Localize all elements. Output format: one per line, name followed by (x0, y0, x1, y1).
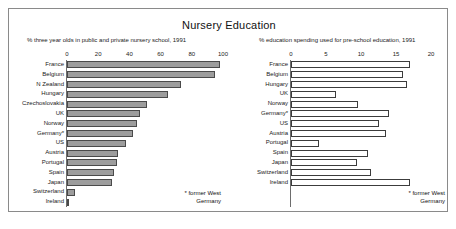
bar (291, 169, 371, 176)
footnote-line: * former West (408, 189, 445, 197)
bar-row: UK (67, 109, 223, 119)
category-label: Germany* (37, 129, 67, 139)
bar (67, 101, 147, 108)
x-tick-left-40: 40 (126, 51, 133, 57)
footnote-left: * former WestGermany (184, 189, 221, 205)
bar (291, 81, 407, 88)
category-label: Spain (273, 148, 291, 158)
bar (67, 61, 220, 68)
bar-row: Japan (67, 178, 223, 188)
bar (67, 150, 118, 157)
bar (67, 169, 114, 176)
x-tick-left-60: 60 (157, 51, 164, 57)
bar (291, 101, 358, 108)
bar-row: Hungary (67, 89, 223, 99)
bar-track (291, 120, 431, 127)
bar (67, 110, 140, 117)
bar (291, 159, 357, 166)
bar-row: Portugal (291, 138, 431, 148)
bar-row: Germany* (67, 129, 223, 139)
category-label: France (269, 60, 291, 70)
bar (67, 199, 69, 206)
bar-track (67, 130, 223, 137)
figure-root: Nursery Education % three year olds in p… (0, 0, 456, 229)
bar (291, 71, 403, 78)
category-label: US (280, 119, 291, 129)
bar-row: Austria (291, 129, 431, 139)
bar-track (67, 101, 223, 108)
bar (67, 91, 168, 98)
plot-area-left: 020406080100 FranceBelgiumN ZealandHunga… (67, 51, 223, 207)
bar-track (291, 101, 431, 108)
bar (67, 130, 133, 137)
category-label: UK (280, 89, 291, 99)
bar-track (67, 159, 223, 166)
bar (291, 140, 319, 147)
bar-row: Spain (67, 168, 223, 178)
category-label: Norway (268, 99, 291, 109)
category-label: N Zealand (36, 80, 67, 90)
footnote-line: Germany (184, 197, 221, 205)
bar (67, 179, 112, 186)
footnote-line: * former West (184, 189, 221, 197)
x-axis-right: 05101520 (291, 51, 431, 60)
bar-track (67, 71, 223, 78)
bar (291, 110, 389, 117)
bar (291, 120, 379, 127)
bar-row: Norway (291, 99, 431, 109)
bar-row: US (291, 119, 431, 129)
bar-track (67, 81, 223, 88)
x-tick-right-15: 15 (393, 51, 400, 57)
subtitle-left: % three year olds in public and private … (13, 37, 243, 43)
bar-track (291, 140, 431, 147)
bar-row: Austria (67, 148, 223, 158)
bar (67, 81, 181, 88)
bar-row: France (67, 60, 223, 70)
bar-track (67, 61, 223, 68)
subtitle-right: % education spending used for pre-school… (231, 37, 456, 43)
bar (291, 150, 368, 157)
bar-track (291, 130, 431, 137)
category-label: Japan (48, 178, 67, 188)
bar-track (291, 61, 431, 68)
category-label: Belgium (266, 70, 291, 80)
category-label: France (45, 60, 67, 70)
bar-row: Belgium (291, 70, 431, 80)
category-label: Belgium (42, 70, 67, 80)
plot-area-right: 05101520 FranceBelgiumHungaryUKNorwayGer… (291, 51, 431, 207)
category-label: Spain (49, 168, 67, 178)
bar-track (291, 81, 431, 88)
x-tick-right-0: 0 (289, 51, 292, 57)
bar-row: N Zealand (67, 80, 223, 90)
category-label: Ireland (46, 197, 67, 207)
bar-track (67, 150, 223, 157)
bar-row: Ireland (291, 178, 431, 188)
bar-rows-right: FranceBelgiumHungaryUKNorwayGermany*USAu… (291, 60, 431, 207)
chart-title: Nursery Education (9, 19, 449, 31)
bar-track (67, 179, 223, 186)
bar-row: Belgium (67, 70, 223, 80)
footnote-line: Germany (408, 197, 445, 205)
bar-track (291, 71, 431, 78)
category-label: UK (56, 109, 67, 119)
bar (291, 91, 336, 98)
category-label: Austria (45, 148, 67, 158)
bar-rows-left: FranceBelgiumN ZealandHungaryCzechoslova… (67, 60, 223, 207)
bar-track (67, 120, 223, 127)
x-tick-left-0: 0 (65, 51, 68, 57)
bar (67, 120, 137, 127)
bar (291, 179, 410, 186)
category-label: Switzerland (257, 168, 291, 178)
bar-track (291, 169, 431, 176)
x-tick-left-80: 80 (188, 51, 195, 57)
bar-row: UK (291, 89, 431, 99)
bar-track (67, 140, 223, 147)
category-label: Portugal (42, 158, 67, 168)
bar-row: Switzerland (291, 168, 431, 178)
x-tick-right-5: 5 (324, 51, 327, 57)
category-label: Germany* (261, 109, 291, 119)
bar-row: Czechoslovakia (67, 99, 223, 109)
category-label: Switzerland (33, 187, 67, 197)
bar-track (291, 110, 431, 117)
x-tick-left-20: 20 (95, 51, 102, 57)
